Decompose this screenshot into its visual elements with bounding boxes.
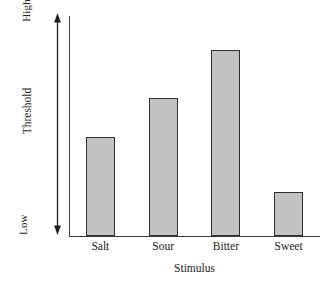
- bar-sweet: [274, 192, 303, 236]
- x-axis-tick-labels: SaltSourBitterSweet: [69, 240, 320, 258]
- y-axis-high-label: High: [20, 0, 32, 53]
- x-label-bitter: Bitter: [195, 240, 258, 252]
- x-label-sour: Sour: [132, 240, 195, 252]
- bar-sour: [149, 98, 178, 236]
- x-label-salt: Salt: [69, 240, 132, 252]
- bar-bitter: [211, 50, 240, 236]
- bar-salt: [86, 137, 115, 236]
- plot-area: [69, 16, 320, 237]
- y-axis-low-label: Low: [17, 181, 29, 235]
- x-label-sweet: Sweet: [257, 240, 320, 252]
- y-axis-title: Threshold: [21, 71, 33, 151]
- x-axis-title: Stimulus: [69, 262, 320, 274]
- x-axis-line: [69, 236, 320, 237]
- bar-series: [69, 17, 320, 236]
- bar-chart-figure: High Low Threshold SaltSourBitterSweet S…: [0, 0, 336, 285]
- y-axis-range-arrow-icon: [53, 13, 62, 235]
